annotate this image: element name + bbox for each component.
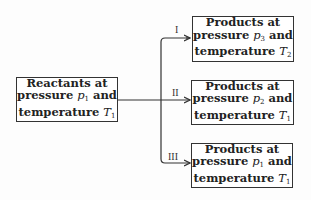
products-box-i: Products at pressure p3 and temperature … [192,16,294,62]
path-label-i: I [175,24,178,35]
products-ii-line2: pressure p2 and [193,92,293,109]
products-i-line3: temperature T2 [195,45,292,62]
products-i-line2: pressure p3 and [193,29,293,46]
path-label-ii: II [172,87,179,98]
products-ii-line3: temperature T1 [194,109,291,126]
products-iii-line3: temperature T1 [194,172,291,189]
reactants-line3: temperature T1 [19,106,116,123]
products-box-ii: Products at pressure p2 and temperature … [191,80,294,125]
reactants-box: Reactants at pressure p1 and temperature… [16,77,118,122]
path-label-iii: III [168,151,178,162]
reactants-line2: pressure p1 and [17,89,117,106]
products-box-iii: Products at pressure p1 and temperature … [191,143,293,188]
products-iii-line2: pressure p1 and [192,155,292,172]
